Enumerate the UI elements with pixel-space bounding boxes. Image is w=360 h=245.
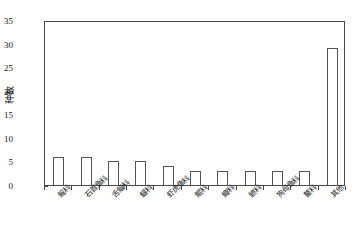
y-tick-label: 15 xyxy=(0,110,13,120)
y-tick-label: 30 xyxy=(0,40,13,50)
y-tick-label: 35 xyxy=(0,16,13,26)
bar xyxy=(81,157,92,185)
bar xyxy=(53,157,64,185)
bar xyxy=(135,161,146,185)
bar xyxy=(108,161,119,185)
bar-chart-figure: 种数 05101520253035 鳐科石首鱼科舌鲾科鳀科虾虎鱼科鲲科鲰科鲼科狗… xyxy=(0,0,360,245)
y-tick-label: 20 xyxy=(0,87,13,97)
y-tick-label: 10 xyxy=(0,134,13,144)
y-tick-label: 25 xyxy=(0,63,13,73)
bar-series xyxy=(45,22,344,185)
y-tick-label: 0 xyxy=(0,181,13,191)
x-tick-mark xyxy=(44,186,45,190)
plot-area xyxy=(44,21,345,186)
bar xyxy=(327,48,338,185)
y-tick-label: 5 xyxy=(0,157,13,167)
